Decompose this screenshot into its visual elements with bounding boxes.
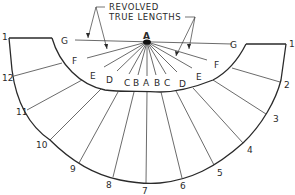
arrowhead-left-1 bbox=[86, 33, 90, 38]
point-9: 9 bbox=[70, 164, 76, 174]
point-4: 4 bbox=[247, 145, 253, 155]
line-11 bbox=[27, 80, 82, 110]
label-G-left: G bbox=[61, 36, 68, 46]
label-B-left: B bbox=[133, 78, 139, 88]
point-12: 12 bbox=[2, 73, 13, 83]
point-8: 8 bbox=[106, 180, 112, 190]
line-7 bbox=[146, 92, 147, 183]
point-10: 10 bbox=[36, 140, 48, 150]
label-B-right: B bbox=[154, 78, 160, 88]
label-C-left: C bbox=[124, 78, 130, 88]
point-3: 3 bbox=[273, 114, 279, 124]
cone-development-diagram: REVOLVED TRUE LENGTHS A G F E D C B A B … bbox=[0, 0, 295, 195]
label-D-right: D bbox=[179, 79, 186, 89]
line-F-left bbox=[87, 42, 147, 58]
leader-right-1 bbox=[176, 17, 195, 56]
label-D-left: D bbox=[106, 75, 113, 85]
point-1-right: 1 bbox=[289, 39, 295, 49]
line-2 bbox=[232, 68, 280, 82]
label-G-right: G bbox=[230, 40, 237, 50]
line-12 bbox=[14, 63, 62, 76]
line-4 bbox=[193, 88, 243, 143]
apex-label: A bbox=[143, 31, 150, 41]
point-5: 5 bbox=[217, 168, 223, 178]
line-9 bbox=[79, 92, 118, 163]
point-2: 2 bbox=[284, 80, 290, 90]
point-6: 6 bbox=[180, 181, 186, 191]
leader-left-1 bbox=[88, 7, 105, 38]
annotation-line1: REVOLVED bbox=[109, 2, 159, 12]
line-B-left bbox=[138, 42, 147, 75]
point-7: 7 bbox=[142, 186, 148, 195]
arrowhead-right-2 bbox=[187, 44, 191, 49]
label-A-center: A bbox=[143, 78, 150, 88]
label-F-right: F bbox=[214, 60, 219, 70]
label-C-right: C bbox=[164, 78, 170, 88]
point-11: 11 bbox=[16, 107, 27, 117]
line-5 bbox=[176, 91, 214, 165]
true-length-fan bbox=[75, 39, 232, 76]
point-1-left: 1 bbox=[2, 32, 8, 42]
leader-left-2 bbox=[96, 7, 107, 49]
outer-arc bbox=[9, 38, 286, 183]
arrowhead-left-2 bbox=[104, 44, 108, 49]
label-E-left: E bbox=[90, 71, 96, 81]
line-G bbox=[75, 40, 232, 44]
annotation-line2: TRUE LENGTHS bbox=[108, 12, 181, 22]
line-6 bbox=[161, 92, 182, 178]
label-F-left: F bbox=[72, 56, 77, 66]
line-8 bbox=[113, 92, 134, 177]
line-3 bbox=[213, 80, 266, 114]
label-E-right: E bbox=[196, 72, 202, 82]
development-outline bbox=[9, 38, 286, 183]
line-10 bbox=[50, 89, 101, 140]
